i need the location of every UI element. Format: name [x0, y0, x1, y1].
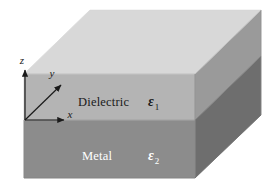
y-axis-label: y: [49, 67, 55, 79]
metal-epsilon-subscript: 2: [155, 156, 160, 166]
z-axis-label: z: [19, 54, 25, 66]
dielectric-label: Dielectric: [78, 95, 130, 109]
metal-epsilon-symbol: ε: [148, 148, 154, 163]
figure-container: z y x Dielectric ε1 Metal ε2: [0, 0, 277, 188]
dielectric-epsilon-symbol: ε: [148, 94, 154, 109]
x-axis-label: x: [67, 108, 73, 120]
slab-diagram: z y x Dielectric ε1 Metal ε2: [0, 0, 277, 188]
metal-label: Metal: [82, 149, 112, 163]
dielectric-epsilon-subscript: 1: [155, 102, 160, 112]
